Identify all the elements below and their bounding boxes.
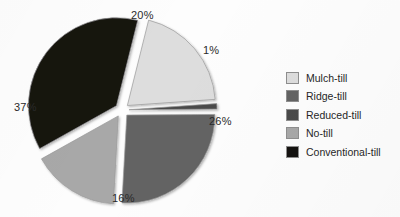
legend-swatch-icon (286, 146, 299, 158)
slice-value-label-reduced-till: 1% (203, 44, 219, 56)
legend-swatch-icon (286, 127, 299, 139)
legend-item[interactable]: Conventional-till (286, 145, 381, 158)
legend-item[interactable]: Mulch-till (286, 71, 381, 84)
legend-item-label: Reduced-till (306, 109, 361, 121)
pie-chart-figure: 20% 1% 26% 16% 37% Mulch-tillRidge-tillR… (0, 0, 400, 217)
pie-slice[interactable] (122, 114, 215, 203)
pie-slice[interactable] (127, 20, 215, 105)
slice-value-label-mulch-till: 20% (131, 9, 154, 21)
legend-swatch-icon (286, 109, 299, 121)
legend-item-label: Conventional-till (306, 146, 381, 158)
chart-legend: Mulch-tillRidge-tillReduced-tillNo-tillC… (286, 71, 381, 158)
pie-slice[interactable] (28, 18, 137, 149)
slice-value-label-conventional-till: 37% (14, 101, 37, 113)
legend-item-label: Mulch-till (306, 72, 347, 84)
slice-value-label-no-till: 16% (112, 192, 135, 204)
legend-swatch-icon (286, 90, 299, 102)
slice-value-label-ridge-till: 26% (209, 115, 232, 127)
legend-item[interactable]: Ridge-till (286, 90, 381, 103)
pie-chart-plot-area: 20% 1% 26% 16% 37% (0, 0, 258, 217)
pie-chart-svg (0, 0, 258, 217)
legend-item[interactable]: No-till (286, 127, 381, 140)
legend-swatch-icon (286, 72, 299, 84)
legend-item[interactable]: Reduced-till (286, 108, 381, 121)
legend-item-label: No-till (306, 127, 333, 139)
legend-item-label: Ridge-till (306, 90, 347, 102)
